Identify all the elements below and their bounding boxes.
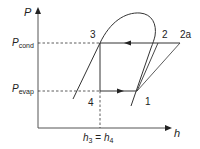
- x-axis-label: h: [174, 128, 180, 139]
- x-axis-arrow-icon: [165, 125, 172, 131]
- ph-diagram: P h Pcond Pevap 3 2 2a 4 1 h3 = h4: [0, 0, 200, 149]
- point-2a-label: 2a: [180, 30, 191, 40]
- point-2-label: 2: [162, 30, 168, 40]
- point-1-label: 1: [145, 97, 151, 107]
- p-evap-symbol: P: [12, 83, 19, 94]
- h4-subscript: 4: [109, 137, 113, 144]
- y-axis-arrow-icon: [35, 7, 41, 14]
- y-axis-label: P: [24, 7, 31, 18]
- point-3-label: 3: [90, 30, 96, 40]
- equals-sign: =: [92, 132, 103, 143]
- p-evap-label: Pevap: [12, 84, 34, 95]
- saturation-dome: [73, 13, 155, 106]
- process-1-2a: [137, 43, 180, 91]
- arrow-4-1-icon: [117, 89, 124, 94]
- arrow-2-3-icon: [124, 41, 131, 46]
- p-cond-symbol: P: [12, 37, 19, 48]
- ph-diagram-canvas: [0, 0, 200, 149]
- point-4-label: 4: [88, 98, 94, 108]
- p-evap-subscript: evap: [19, 88, 34, 95]
- process-1-2: [137, 43, 158, 91]
- p-cond-subscript: cond: [19, 42, 34, 49]
- h3-equals-h4-label: h3 = h4: [83, 133, 113, 144]
- p-cond-label: Pcond: [12, 38, 34, 49]
